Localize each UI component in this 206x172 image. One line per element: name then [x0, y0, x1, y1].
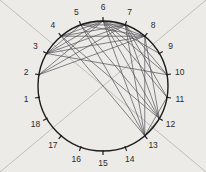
node-label-10: 10 [175, 67, 185, 77]
node-label-13: 13 [148, 140, 158, 150]
node-label-2: 2 [24, 67, 29, 77]
node-label-11: 11 [175, 94, 184, 104]
node-label-7: 7 [127, 7, 132, 17]
node-label-8: 8 [151, 20, 156, 30]
tick-node-2 [35, 74, 40, 75]
circular-chord-diagram: 123456789101112131415161718 [0, 0, 206, 172]
node-label-5: 5 [74, 7, 79, 17]
tick-node-11 [166, 97, 171, 98]
node-label-1: 1 [24, 94, 29, 104]
node-label-12: 12 [166, 119, 176, 129]
node-label-15: 15 [98, 158, 108, 168]
node-label-18: 18 [31, 119, 41, 129]
chord-3-10 [47, 54, 167, 75]
chord-7-10 [125, 25, 167, 75]
node-label-3: 3 [33, 41, 38, 51]
node-label-6: 6 [101, 2, 106, 12]
node-label-4: 4 [50, 20, 55, 30]
node-label-14: 14 [125, 154, 135, 164]
node-label-9: 9 [168, 41, 173, 51]
node-label-17: 17 [48, 140, 58, 150]
tick-node-10 [166, 74, 171, 75]
tick-node-1 [35, 97, 40, 98]
chord-4-6 [61, 21, 103, 36]
node-label-16: 16 [72, 154, 82, 164]
